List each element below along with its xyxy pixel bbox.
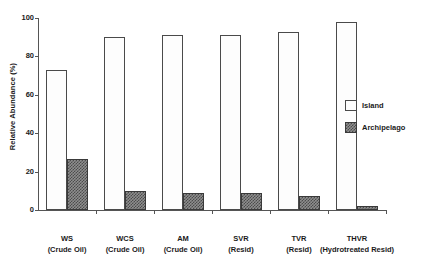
x-axis-tick-mark: [96, 210, 97, 214]
y-axis-tick-label: 40: [26, 129, 34, 137]
bar-group: [102, 37, 148, 210]
y-axis-tick-label: 60: [26, 91, 34, 99]
legend-label-island: Island: [362, 101, 384, 110]
y-axis-tick-mark: [35, 210, 38, 211]
bar-group: [276, 32, 322, 210]
bar-archipelago[interactable]: [183, 193, 204, 210]
legend-item-island: Island: [345, 100, 405, 111]
bar-chart-figure: Relative Abundance (%) 020406080100 WS(C…: [0, 0, 425, 264]
legend-swatch-archipelago-icon: [345, 122, 357, 133]
bar-archipelago[interactable]: [67, 159, 88, 210]
y-axis-tick-label: 20: [26, 168, 34, 176]
x-axis-category-label: THVR(Hydrotreated Resid): [297, 234, 417, 255]
y-axis-tick-mark: [35, 95, 38, 96]
y-axis-line: [38, 18, 39, 211]
y-axis-tick-mark: [35, 56, 38, 57]
chart-legend: Island Archipelago: [345, 100, 405, 133]
x-axis-tick-mark: [212, 210, 213, 214]
x-axis-tick-mark: [386, 210, 387, 214]
x-axis-tick-mark: [328, 210, 329, 214]
y-axis-tick-label: 100: [21, 14, 34, 22]
bar-archipelago[interactable]: [241, 193, 262, 210]
legend-label-archipelago: Archipelago: [362, 123, 405, 132]
category-name: THVR: [297, 234, 417, 245]
y-axis-tick-label: 80: [26, 53, 34, 61]
bar-archipelago[interactable]: [299, 196, 320, 210]
y-axis-tick-mark: [35, 133, 38, 134]
bar-group: [160, 35, 206, 210]
y-axis-label: Relative Abundance (%): [4, 0, 22, 212]
bar-archipelago[interactable]: [357, 206, 378, 210]
bar-archipelago[interactable]: [125, 191, 146, 210]
bar-island[interactable]: [104, 37, 125, 210]
y-axis-label-text: Relative Abundance (%): [9, 62, 18, 149]
bar-island[interactable]: [278, 32, 299, 210]
x-axis-tick-mark: [270, 210, 271, 214]
bar-island[interactable]: [220, 35, 241, 210]
bar-group: [218, 35, 264, 210]
y-axis-tick-mark: [35, 172, 38, 173]
bar-island[interactable]: [46, 70, 67, 210]
bar-island[interactable]: [162, 35, 183, 210]
y-axis-tick-label: 0: [30, 206, 34, 214]
legend-swatch-island-icon: [345, 100, 357, 111]
y-axis-tick-mark: [35, 18, 38, 19]
category-subtitle: (Hydrotreated Resid): [297, 245, 417, 256]
bar-group: [44, 70, 90, 210]
x-axis-tick-mark: [154, 210, 155, 214]
plot-area: 020406080100 WS(Crude Oil)WCS(Crude Oil)…: [38, 18, 386, 211]
legend-item-archipelago: Archipelago: [345, 122, 405, 133]
